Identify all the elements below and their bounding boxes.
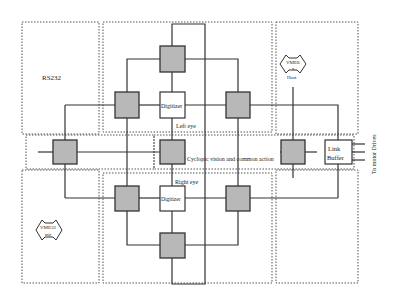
wire	[127, 211, 160, 245]
vme32-mit-label: mit	[45, 232, 52, 237]
host-label: Host	[287, 75, 297, 80]
wire	[185, 211, 238, 245]
processor-right-eye-right	[226, 186, 250, 211]
wire	[185, 59, 238, 92]
processor-right-eye-left	[115, 186, 139, 211]
processor-left-eye-left	[115, 92, 139, 118]
vme8-label: VME8	[286, 60, 300, 65]
processor-host	[281, 140, 305, 164]
processor-left-eye-right	[226, 92, 250, 118]
digitizer-left-label: Digitizer	[161, 103, 182, 109]
digitizer-right-label: Digitizer	[161, 196, 181, 202]
link-label: Link	[328, 145, 341, 152]
processor-cyclopic-center	[160, 140, 185, 164]
processor-top	[160, 46, 185, 72]
to-motor-drives-label: To motor Drives	[371, 134, 377, 174]
host-lower-region	[276, 170, 358, 283]
processor-cyclopic-left	[53, 140, 77, 164]
vme32-connector-icon	[36, 220, 62, 240]
processor-bottom	[160, 233, 185, 258]
wire	[250, 105, 338, 141]
rs232-label: RS232	[42, 74, 62, 82]
cyclopic-label: Cyclopic vision and common action	[187, 156, 274, 162]
block-diagram: RS232 Digitizer Left eye Cyclopic vision…	[0, 0, 397, 299]
rs232-lower-region	[22, 170, 99, 283]
vme32-label: VME32	[40, 225, 57, 230]
buffer-label: Buffer	[327, 154, 345, 161]
left-eye-label: Left eye	[176, 123, 196, 129]
right-eye-label: Right eye	[175, 179, 198, 185]
wire	[127, 59, 160, 92]
